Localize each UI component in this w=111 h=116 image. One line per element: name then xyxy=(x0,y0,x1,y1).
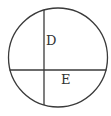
circle-diagram: D E xyxy=(0,0,111,116)
circle-outline xyxy=(9,8,108,107)
label-e: E xyxy=(61,72,71,87)
label-d: D xyxy=(46,33,56,48)
